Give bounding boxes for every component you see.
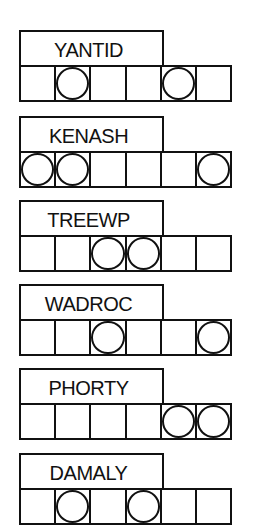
answer-cell-circled[interactable] xyxy=(91,237,126,270)
circle-marker-icon xyxy=(127,237,160,270)
scrambled-word-label: PHORTY xyxy=(21,376,162,400)
scrambled-word-box: PHORTY xyxy=(19,368,164,404)
scrambled-word-label: TREEWP xyxy=(21,208,162,232)
answer-cell-circled[interactable] xyxy=(162,405,197,438)
answer-cell[interactable] xyxy=(127,405,162,438)
answer-cell[interactable] xyxy=(91,490,126,523)
answer-cells xyxy=(19,319,232,356)
answer-cell[interactable] xyxy=(127,153,162,186)
scrambled-word-box: TREEWP xyxy=(19,200,164,236)
answer-cell[interactable] xyxy=(91,153,126,186)
answer-cells xyxy=(19,403,232,440)
jumble-word-5: PHORTY xyxy=(19,368,232,440)
scrambled-word-label: KENASH xyxy=(21,124,162,148)
answer-cell[interactable] xyxy=(56,237,91,270)
circle-marker-icon xyxy=(197,321,230,354)
answer-cell[interactable] xyxy=(56,405,91,438)
answer-cell[interactable] xyxy=(21,405,56,438)
answer-cell[interactable] xyxy=(162,237,197,270)
answer-cell[interactable] xyxy=(21,321,56,354)
answer-cell-circled[interactable] xyxy=(127,237,162,270)
answer-cell[interactable] xyxy=(197,237,230,270)
circle-marker-icon xyxy=(162,405,195,438)
answer-cell[interactable] xyxy=(21,67,56,100)
circle-marker-icon xyxy=(197,153,230,186)
answer-cell[interactable] xyxy=(162,321,197,354)
scrambled-word-label: YANTID xyxy=(21,38,162,62)
scrambled-word-label: WADROC xyxy=(21,292,162,316)
scrambled-word-box: KENASH xyxy=(19,116,164,152)
jumble-word-4: WADROC xyxy=(19,284,232,356)
answer-cell[interactable] xyxy=(162,153,197,186)
answer-cell[interactable] xyxy=(162,490,197,523)
scrambled-word-box: YANTID xyxy=(19,30,164,66)
answer-cells xyxy=(19,65,232,102)
answer-cell[interactable] xyxy=(197,490,230,523)
jumble-word-3: TREEWP xyxy=(19,200,232,272)
circle-marker-icon xyxy=(127,490,160,523)
scrambled-word-box: WADROC xyxy=(19,284,164,320)
scrambled-word-label: DAMALY xyxy=(21,461,162,485)
answer-cell[interactable] xyxy=(91,67,126,100)
answer-cell[interactable] xyxy=(21,490,56,523)
answer-cell[interactable] xyxy=(56,321,91,354)
circle-marker-icon xyxy=(162,67,195,100)
answer-cell-circled[interactable] xyxy=(56,153,91,186)
circle-marker-icon xyxy=(197,405,230,438)
answer-cell-circled[interactable] xyxy=(127,490,162,523)
answer-cell-circled[interactable] xyxy=(197,153,230,186)
answer-cell[interactable] xyxy=(127,321,162,354)
answer-cell-circled[interactable] xyxy=(56,67,91,100)
answer-cell[interactable] xyxy=(21,237,56,270)
answer-cell[interactable] xyxy=(197,67,230,100)
answer-cell-circled[interactable] xyxy=(197,405,230,438)
scrambled-word-box: DAMALY xyxy=(19,453,164,489)
answer-cell[interactable] xyxy=(127,67,162,100)
answer-cell[interactable] xyxy=(91,405,126,438)
answer-cells xyxy=(19,151,232,188)
answer-cell-circled[interactable] xyxy=(162,67,197,100)
circle-marker-icon xyxy=(91,237,124,270)
circle-marker-icon xyxy=(21,153,54,186)
jumble-word-6: DAMALY xyxy=(19,453,232,525)
answer-cells xyxy=(19,488,232,525)
jumble-word-2: KENASH xyxy=(19,116,232,188)
jumble-word-1: YANTID xyxy=(19,30,232,102)
answer-cell-circled[interactable] xyxy=(197,321,230,354)
answer-cells xyxy=(19,235,232,272)
answer-cell-circled[interactable] xyxy=(56,490,91,523)
circle-marker-icon xyxy=(56,153,89,186)
circle-marker-icon xyxy=(56,490,89,523)
circle-marker-icon xyxy=(56,67,89,100)
answer-cell-circled[interactable] xyxy=(21,153,56,186)
circle-marker-icon xyxy=(91,321,124,354)
answer-cell-circled[interactable] xyxy=(91,321,126,354)
